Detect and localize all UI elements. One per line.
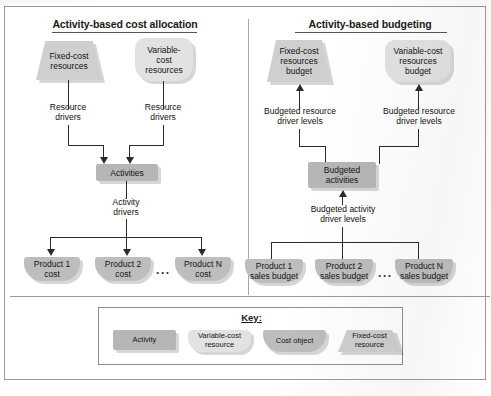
connector-variable-to-activities-v2 <box>163 125 164 146</box>
node-fixed-cost-resources-budget-label: Fixed-cost resources budget <box>276 46 321 76</box>
node-product-n-sales-budget: Product N sales budget <box>395 259 453 283</box>
panel-divider <box>248 19 249 295</box>
connector-activities-to-products-v2 <box>126 219 127 238</box>
connector-fixed-to-activities-h <box>68 145 104 146</box>
node-product-2-sales-budget: Product 2 sales budget <box>315 259 373 283</box>
arrow-to-product1 <box>47 249 55 256</box>
node-variable-cost-resources: Variable- cost resources <box>135 38 193 81</box>
left-panel-title: Activity-based cost allocation <box>25 18 225 30</box>
node-product-2-cost: Product 2 cost <box>95 257 151 281</box>
arrow-fixed-to-activities <box>100 157 108 164</box>
node-budgeted-activities-label: Budgeted activities <box>321 165 363 185</box>
diagram-frame: Activity-based cost allocation Fixed-cos… <box>4 6 486 380</box>
node-product-1-cost: Product 1 cost <box>24 257 80 281</box>
connector-budget-product2-riser <box>342 242 343 260</box>
key-item-activity-label: Activity <box>133 336 157 345</box>
key-item-variable-cost-resource-label: Variable-cost resource <box>198 332 241 349</box>
label-budgeted-activity-driver-levels: Budgeted activity driver levels <box>299 204 387 224</box>
key-item-variable-cost-resource: Variable-cost resource <box>188 330 251 352</box>
node-activities: Activities <box>96 164 158 181</box>
connector-to-fixed-budget-v2 <box>299 129 300 147</box>
arrow-to-product2 <box>123 249 131 256</box>
node-product-n-cost: Product N cost <box>175 257 231 281</box>
connector-variable-to-activities-h <box>129 145 164 146</box>
node-variable-cost-resources-budget: Variable-cost resources budget <box>385 40 451 82</box>
arrow-variable-to-activities <box>126 157 134 164</box>
label-resource-drivers-right: Resource drivers <box>133 102 193 122</box>
node-product-2-sales-budget-label: Product 2 sales budget <box>317 261 371 281</box>
node-product-2-cost-label: Product 2 cost <box>102 259 144 279</box>
key-item-fixed-cost-resource: Fixed-cost resource <box>338 330 401 352</box>
key-title: Key: <box>99 312 404 323</box>
key-legend-box: Key: Activity Variable-cost resource Cos… <box>98 307 403 365</box>
key-item-cost-object: Cost object <box>263 330 326 352</box>
key-section-divider <box>10 296 490 297</box>
connector-to-variable-budget-v2 <box>418 129 419 147</box>
label-activity-drivers: Activity drivers <box>96 197 156 217</box>
arrow-to-productN <box>198 249 206 256</box>
node-product-1-cost-label: Product 1 cost <box>31 259 73 279</box>
node-product-1-sales-budget: Product 1 sales budget <box>245 259 303 283</box>
node-product-n-sales-budget-label: Product N sales budget <box>397 261 451 281</box>
connector-to-variable-budget-h <box>379 146 419 147</box>
right-panel-title: Activity-based budgeting <box>265 18 475 30</box>
connector-to-variable-budget-v3 <box>379 146 380 164</box>
node-budgeted-activities: Budgeted activities <box>308 162 376 188</box>
connector-budget-products-bus <box>271 242 419 243</box>
key-item-activity: Activity <box>113 330 176 350</box>
connector-budget-product1-riser <box>271 242 272 260</box>
connector-fixed-to-activities-v2 <box>68 125 69 146</box>
node-activities-label: Activities <box>107 168 147 178</box>
left-products-ellipsis: ... <box>156 263 171 277</box>
node-variable-cost-resources-budget-label: Variable-cost resources budget <box>391 46 446 76</box>
label-budgeted-resource-driver-levels-left: Budgeted resource driver levels <box>257 106 343 126</box>
right-panel-title-rule <box>295 32 447 33</box>
label-resource-drivers-left: Resource drivers <box>38 102 98 122</box>
node-product-n-cost-label: Product N cost <box>181 259 225 279</box>
node-fixed-cost-resources-budget: Fixed-cost resources budget <box>267 40 331 82</box>
node-product-1-sales-budget-label: Product 1 sales budget <box>247 261 301 281</box>
key-item-fixed-cost-resource-label: Fixed-cost resource <box>352 332 387 349</box>
right-products-ellipsis: ... <box>378 266 393 280</box>
node-fixed-cost-resources: Fixed-cost resources <box>36 41 102 80</box>
node-fixed-cost-resources-label: Fixed-cost resources <box>46 51 91 71</box>
connector-products-to-activities-v2 <box>342 227 343 243</box>
connector-budget-productN-riser <box>418 242 419 260</box>
label-budgeted-resource-driver-levels-right: Budgeted resource driver levels <box>376 106 462 126</box>
key-title-text: Key: <box>241 312 262 323</box>
node-variable-cost-resources-label: Variable- cost resources <box>142 45 185 75</box>
key-item-cost-object-label: Cost object <box>276 337 314 346</box>
connector-to-fixed-budget-h <box>299 146 326 147</box>
left-panel-title-rule <box>52 32 197 33</box>
